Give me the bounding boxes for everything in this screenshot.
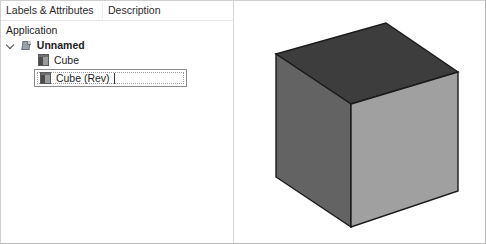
tree-row-cube[interactable]: Cube [1,53,233,68]
tree-row-label-cube: Cube [54,53,79,68]
app-window: Labels & Attributes Description Applicat… [0,0,486,244]
text-cursor [114,73,115,84]
cube-icon [37,53,51,68]
tree-column-header: Labels & Attributes Description [1,1,233,21]
chevron-down-icon[interactable] [6,38,18,53]
column-header-description[interactable]: Description [108,4,161,17]
document-icon [21,38,34,53]
tree-row-unnamed[interactable]: Unnamed [1,38,233,53]
tree-body: Application Unnamed Cube [1,21,233,88]
column-header-labels-attributes[interactable]: Labels & Attributes [6,4,94,17]
tree-row-application[interactable]: Application [1,23,233,38]
3d-viewport[interactable] [235,1,485,243]
tree-row-label-application: Application [6,23,57,38]
tree-row-label-unnamed: Unnamed [37,38,85,53]
cube-icon [39,71,53,86]
model-tree-panel[interactable]: Labels & Attributes Description Applicat… [1,1,234,243]
tree-row-cube-rev[interactable]: Cube (Rev) [1,69,233,88]
tree-row-label-cube-rev[interactable]: Cube (Rev) [56,72,110,84]
column-divider[interactable] [102,2,103,19]
cube-model[interactable] [235,1,485,243]
tree-row-cube-rev-content[interactable]: Cube (Rev) [39,71,115,86]
